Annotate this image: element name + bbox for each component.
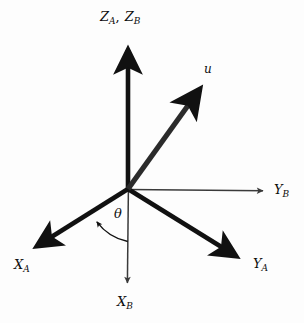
axis-label-x-b-base: X	[117, 294, 126, 309]
vector-u-arrow	[128, 90, 200, 190]
angle-label-theta: θ	[114, 206, 122, 221]
diagram-canvas	[0, 0, 304, 323]
axis-label-z-base2: Z	[125, 9, 134, 24]
axis-label-y-a: YA	[253, 257, 268, 273]
axis-label-x-a-sub: A	[23, 264, 30, 274]
axis-label-y-b-sub: B	[283, 189, 290, 199]
axis-label-x-b: XB	[117, 295, 133, 311]
axis-label-y-b: YB	[274, 183, 289, 199]
axis-y-a	[128, 189, 236, 256]
axis-y-b	[128, 190, 263, 191]
vector-label-u: u	[204, 62, 212, 76]
vector-u-shaft	[128, 90, 200, 190]
angle-theta-arc	[97, 222, 128, 242]
axis-label-z-sep: ,	[116, 9, 125, 24]
axis-label-y-a-sub: A	[262, 263, 269, 273]
coordinate-frame-diagram: ZA, ZB XA YA YB XB u θ	[0, 0, 304, 323]
axis-label-y-b-base: Y	[274, 182, 283, 197]
frame-a-axes	[37, 50, 236, 256]
axis-label-z-base: Z	[100, 9, 109, 24]
axis-x-b	[127, 189, 128, 283]
axis-label-x-a-base: X	[14, 257, 23, 272]
axis-label-x-a: XA	[14, 258, 30, 274]
axis-label-x-b-sub: B	[126, 301, 133, 311]
axis-label-y-a-base: Y	[253, 256, 262, 271]
axis-label-z-sub2: B	[134, 16, 141, 26]
axis-label-z: ZA, ZB	[100, 10, 140, 26]
